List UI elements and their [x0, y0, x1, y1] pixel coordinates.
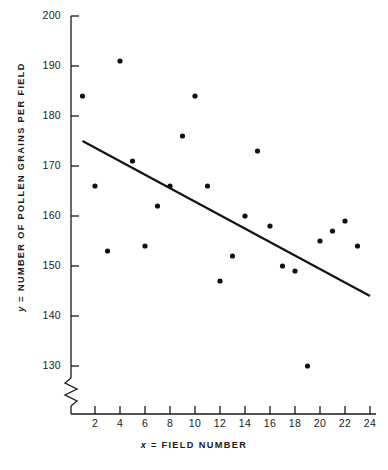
x-axis-tick-label: 16	[258, 417, 282, 429]
data-points	[80, 58, 360, 368]
data-point	[305, 363, 310, 368]
data-point	[105, 248, 110, 253]
y-axis-break-symbol	[65, 378, 77, 414]
regression-line-segment	[83, 141, 371, 296]
y-axis-tick-label: 130	[31, 359, 61, 371]
data-point	[280, 263, 285, 268]
x-axis-ticks	[95, 406, 370, 414]
x-axis-tick-label: 24	[358, 417, 382, 429]
data-point	[205, 183, 210, 188]
data-point	[292, 268, 297, 273]
data-point	[130, 158, 135, 163]
data-point	[355, 243, 360, 248]
y-axis-tick-label: 140	[31, 309, 61, 321]
data-point	[180, 133, 185, 138]
data-point	[242, 213, 247, 218]
y-axis-tick-label: 150	[31, 259, 61, 271]
data-point	[117, 58, 122, 63]
data-point	[255, 148, 260, 153]
data-point	[167, 183, 172, 188]
data-point	[80, 93, 85, 98]
x-axis-tick-label: 18	[283, 417, 307, 429]
y-axis-tick-label: 160	[31, 209, 61, 221]
x-axis-tick-label: 20	[308, 417, 332, 429]
regression-line	[83, 141, 371, 296]
y-axis-tick-label: 190	[31, 59, 61, 71]
data-point	[330, 228, 335, 233]
data-point	[267, 223, 272, 228]
x-axis-tick-label: 12	[208, 417, 232, 429]
y-axis-tick-label: 180	[31, 109, 61, 121]
data-point	[192, 93, 197, 98]
data-point	[92, 183, 97, 188]
y-axis-tick-label: 170	[31, 159, 61, 171]
x-axis-tick-label: 22	[333, 417, 357, 429]
data-point	[317, 238, 322, 243]
data-point	[230, 253, 235, 258]
data-point	[342, 218, 347, 223]
x-axis-tick-label: 4	[108, 417, 132, 429]
y-axis-ticks	[71, 16, 79, 366]
data-point	[217, 278, 222, 283]
y-axis-tick-label: 200	[31, 9, 61, 21]
data-point	[155, 203, 160, 208]
x-axis-tick-label: 6	[133, 417, 157, 429]
x-axis-tick-label: 14	[233, 417, 257, 429]
x-axis-tick-label: 10	[183, 417, 207, 429]
x-axis-tick-label: 8	[158, 417, 182, 429]
data-point	[142, 243, 147, 248]
x-axis-tick-label: 2	[83, 417, 107, 429]
scatter-plot-figure: y = NUMBER OF POLLEN GRAINS PER FIELD x …	[0, 0, 388, 470]
